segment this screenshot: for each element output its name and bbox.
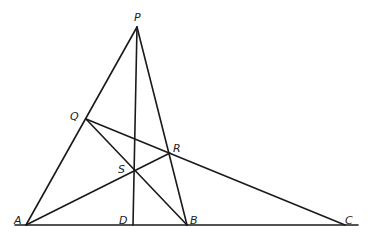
point-label-p: P bbox=[134, 11, 141, 24]
point-label-s: S bbox=[118, 163, 125, 176]
point-label-b: B bbox=[190, 214, 198, 227]
segment-AP bbox=[26, 27, 137, 225]
segment-PD bbox=[133, 27, 137, 225]
geometry-diagram: PQRSADBC bbox=[0, 0, 372, 237]
labels-group: PQRSADBC bbox=[13, 11, 353, 227]
point-label-d: D bbox=[119, 214, 127, 227]
segment-QB bbox=[86, 119, 187, 225]
point-label-q: Q bbox=[70, 110, 79, 123]
segment-AR bbox=[26, 153, 170, 225]
point-label-r: R bbox=[173, 142, 181, 155]
segments-group bbox=[15, 27, 358, 225]
segment-PB bbox=[137, 27, 187, 225]
point-label-a: A bbox=[13, 214, 22, 227]
point-label-c: C bbox=[345, 214, 353, 227]
